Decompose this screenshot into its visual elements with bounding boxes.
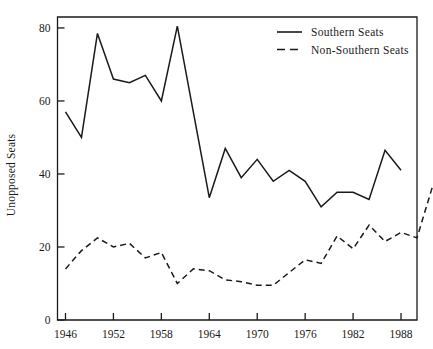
legend-label: Non-Southern Seats [311,44,409,56]
y-tick-label: 0 [45,314,51,326]
line-chart-plot: 020406080 194619521958196419701976198219… [0,0,433,349]
chart-figure: Unopposed Seats 020406080 19461952195819… [0,0,433,349]
plot-border [58,17,418,320]
y-tick-label: 40 [39,168,51,180]
x-tick-label: 1982 [342,328,365,340]
legend-label: Southern Seats [311,26,384,38]
y-tick-label: 80 [39,22,51,34]
y-tick-label: 60 [39,95,51,107]
x-tick-label: 1964 [198,328,221,340]
y-axis-label-text: Unopposed Seats [5,133,17,216]
x-axis-ticks: 19461952195819641970197619821988 [54,313,413,340]
x-tick-label: 1952 [102,328,125,340]
x-tick-label: 1976 [294,328,317,340]
x-tick-label: 1988 [390,328,413,340]
x-tick-label: 1958 [150,328,173,340]
series-line-non-southern-seats [65,185,432,285]
y-tick-label: 20 [39,241,51,253]
y-axis-label: Unopposed Seats [0,0,22,349]
chart-legend: Southern SeatsNon-Southern Seats [277,26,409,56]
x-tick-label: 1946 [54,328,77,340]
plot-frame [58,17,418,320]
x-tick-label: 1970 [246,328,269,340]
y-axis-ticks: 020406080 [39,22,65,326]
data-series-group [65,26,432,285]
